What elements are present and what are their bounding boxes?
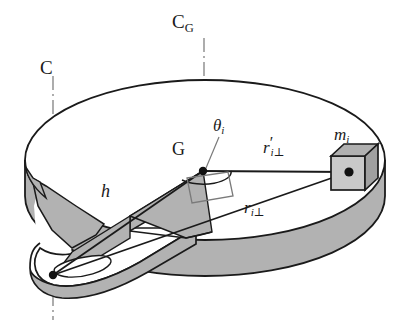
angle-label-subscript: i	[221, 124, 224, 136]
distance-label-r-prime-i-perp: r′i⊥	[263, 135, 285, 158]
axis-label-c: C	[40, 58, 53, 77]
point-marker-mass-element	[344, 167, 353, 176]
disk-diagram-svg	[0, 0, 399, 336]
angle-label-theta-i: θi	[213, 117, 224, 136]
mass-element-cube-group	[331, 144, 378, 190]
axis-label-cg-base: C	[172, 11, 185, 32]
distance-label-h: h	[101, 182, 110, 200]
point-marker-g	[199, 167, 207, 175]
center-of-mass-label: G	[172, 140, 185, 158]
r-base: r	[244, 198, 251, 217]
distance-label-r-i-perp: ri⊥	[244, 199, 265, 219]
mass-element-label: mi	[334, 126, 349, 145]
mass-label-base: m	[334, 125, 346, 144]
r-prime-perp-symbol: ⊥	[274, 146, 285, 159]
figure-container: CG C G θi r′i⊥ ri⊥ h mi	[0, 0, 399, 336]
axis-label-cg: CG	[172, 12, 194, 34]
mass-label-subscript: i	[346, 133, 349, 145]
axis-label-cg-subscript: G	[185, 21, 194, 35]
r-perp-symbol: ⊥	[254, 206, 265, 219]
point-marker-pivot	[49, 271, 57, 279]
